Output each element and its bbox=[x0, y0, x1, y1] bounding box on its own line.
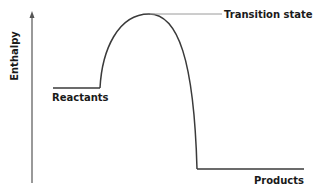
enthalpy-diagram: Enthalpy Transition state Reactants Prod… bbox=[0, 0, 323, 191]
y-axis-arrow-icon bbox=[30, 11, 35, 18]
reactants-label: Reactants bbox=[52, 92, 109, 103]
energy-curve bbox=[100, 14, 197, 169]
products-label: Products bbox=[254, 175, 304, 186]
transition-state-label: Transition state bbox=[224, 9, 313, 20]
y-axis-label: Enthalpy bbox=[9, 31, 20, 81]
